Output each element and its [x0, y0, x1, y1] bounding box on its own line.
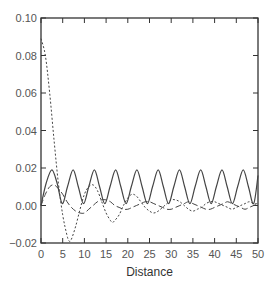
x-tick-label: 50: [252, 248, 264, 260]
x-tick-label: 40: [208, 248, 220, 260]
x-tick-label: 35: [187, 248, 199, 260]
x-tick-label: 20: [122, 248, 134, 260]
y-tick-label: 0.00: [16, 200, 37, 212]
line-chart: −0.020.000.020.040.060.080.10 0510152025…: [0, 0, 278, 292]
series-line-dotted: [41, 39, 258, 242]
x-tick-label: 0: [38, 248, 44, 260]
y-tick-label: 0.06: [16, 87, 37, 99]
x-tick-label: 45: [230, 248, 242, 260]
y-tick-label: −0.02: [9, 237, 37, 249]
x-tick-label: 25: [143, 248, 155, 260]
x-axis-ticks: 05101520253035404550: [38, 18, 264, 260]
data-series: [41, 39, 258, 242]
y-tick-label: 0.02: [16, 162, 37, 174]
series-line-solid: [41, 170, 258, 206]
x-tick-label: 15: [100, 248, 112, 260]
x-tick-label: 5: [60, 248, 66, 260]
x-tick-label: 30: [165, 248, 177, 260]
y-axis-ticks: −0.020.000.020.040.060.080.10: [9, 12, 258, 249]
x-tick-label: 10: [78, 248, 90, 260]
y-tick-label: 0.10: [16, 12, 37, 24]
x-axis-title: Distance: [126, 265, 173, 279]
y-tick-label: 0.08: [16, 50, 37, 62]
y-tick-label: 0.04: [16, 125, 37, 137]
